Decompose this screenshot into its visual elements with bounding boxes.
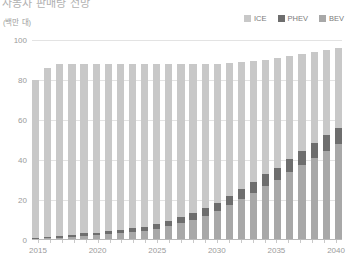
- bar-2021[interactable]: [105, 40, 112, 240]
- bar-segment-bev: [226, 205, 233, 240]
- x-axis-tick-mark: [312, 240, 313, 243]
- bar-segment-ice: [32, 80, 39, 238]
- bar-2019[interactable]: [80, 40, 87, 240]
- legend-label: BEV: [329, 15, 344, 23]
- bar-segment-phev: [238, 189, 245, 199]
- bar-segment-ice: [44, 68, 51, 237]
- bar-segment-bev: [177, 223, 184, 240]
- bar-2035[interactable]: [274, 40, 281, 240]
- x-axis-tick-mark: [50, 240, 51, 243]
- bar-2034[interactable]: [262, 40, 269, 240]
- x-axis-tick-label: 2015: [29, 246, 47, 255]
- bar-2017[interactable]: [56, 40, 63, 240]
- bar-segment-ice: [298, 54, 305, 151]
- bar-segment-ice: [238, 62, 245, 189]
- bar-segment-phev: [335, 128, 342, 144]
- y-axis-tick-label: 100: [14, 36, 27, 45]
- bar-2040[interactable]: [335, 40, 342, 240]
- bar-segment-bev: [165, 226, 172, 240]
- bar-segment-phev: [214, 203, 221, 211]
- x-axis-tick-mark: [217, 240, 218, 243]
- legend-item-ice[interactable]: ICE: [244, 15, 267, 23]
- x-axis-tick-mark: [145, 240, 146, 243]
- x-axis-tick-mark: [300, 240, 301, 243]
- bar-2032[interactable]: [238, 40, 245, 240]
- y-axis-tick-label: 40: [18, 156, 27, 165]
- bar-segment-bev: [250, 193, 257, 240]
- legend-swatch-icon: [319, 15, 326, 22]
- x-axis-tick-mark: [62, 240, 63, 243]
- y-axis-tick-label: 60: [18, 116, 27, 125]
- x-axis-tick-mark: [193, 240, 194, 243]
- x-axis-tick-mark: [205, 240, 206, 243]
- bar-segment-bev: [202, 216, 209, 240]
- bar-segment-phev: [250, 182, 257, 193]
- bar-2018[interactable]: [68, 40, 75, 240]
- bar-2036[interactable]: [286, 40, 293, 240]
- bar-2028[interactable]: [189, 40, 196, 240]
- bar-segment-ice: [93, 64, 100, 233]
- bar-2026[interactable]: [165, 40, 172, 240]
- bar-segment-ice: [68, 64, 75, 235]
- bar-segment-phev: [262, 174, 269, 186]
- bar-segment-ice: [177, 64, 184, 217]
- bar-segment-bev: [335, 144, 342, 240]
- bar-2038[interactable]: [311, 40, 318, 240]
- bar-segment-phev: [311, 143, 318, 158]
- x-axis-tick-mark: [110, 240, 111, 243]
- chart-title: 자동차 판매량 전망: [2, 0, 90, 10]
- bar-segment-ice: [56, 64, 63, 236]
- bar-2016[interactable]: [44, 40, 51, 240]
- y-axis-tick-label: 80: [18, 76, 27, 85]
- x-axis-tick-mark: [336, 240, 337, 243]
- bar-2015[interactable]: [32, 40, 39, 240]
- bar-segment-phev: [189, 213, 196, 220]
- bar-segment-ice: [202, 64, 209, 208]
- bar-2030[interactable]: [214, 40, 221, 240]
- bar-segment-phev: [286, 159, 293, 172]
- legend-swatch-icon: [278, 15, 285, 22]
- bar-2037[interactable]: [298, 40, 305, 240]
- bar-2029[interactable]: [202, 40, 209, 240]
- bar-2023[interactable]: [129, 40, 136, 240]
- bar-segment-ice: [117, 64, 124, 230]
- bar-2020[interactable]: [93, 40, 100, 240]
- legend-item-phev[interactable]: PHEV: [278, 15, 308, 23]
- x-axis-tick-mark: [86, 240, 87, 243]
- bar-segment-bev: [311, 158, 318, 240]
- bar-segment-bev: [298, 165, 305, 240]
- bar-segment-phev: [202, 208, 209, 216]
- bar-2024[interactable]: [141, 40, 148, 240]
- x-axis-tick-mark: [121, 240, 122, 243]
- bar-segment-bev: [238, 199, 245, 240]
- bar-2031[interactable]: [226, 40, 233, 240]
- bar-segment-bev: [323, 151, 330, 240]
- x-axis-tick-label: 2040: [327, 246, 345, 255]
- x-axis-tick-label: 2020: [89, 246, 107, 255]
- bar-2039[interactable]: [323, 40, 330, 240]
- bar-segment-ice: [286, 56, 293, 159]
- bar-segment-bev: [274, 180, 281, 240]
- bar-segment-ice: [226, 63, 233, 196]
- legend-item-bev[interactable]: BEV: [319, 15, 344, 23]
- bar-segment-ice: [165, 64, 172, 221]
- bar-2033[interactable]: [250, 40, 257, 240]
- bar-segment-ice: [129, 64, 136, 228]
- x-axis-ticks: 201520202025203020352040: [32, 240, 342, 244]
- x-axis-tick-mark: [241, 240, 242, 243]
- bar-2025[interactable]: [153, 40, 160, 240]
- bar-segment-bev: [189, 220, 196, 240]
- bar-2022[interactable]: [117, 40, 124, 240]
- bar-segment-ice: [80, 64, 87, 233]
- bar-segment-ice: [262, 60, 269, 174]
- bar-2027[interactable]: [177, 40, 184, 240]
- bar-segment-phev: [274, 168, 281, 180]
- x-axis-tick-mark: [181, 240, 182, 243]
- x-axis-tick-mark: [74, 240, 75, 243]
- bar-segment-ice: [274, 58, 281, 168]
- x-axis-tick-mark: [133, 240, 134, 243]
- bar-group: [32, 40, 342, 240]
- chart-legend: ICEPHEVBEV: [244, 15, 344, 23]
- bar-segment-phev: [298, 151, 305, 165]
- x-axis-tick-label: 2025: [148, 246, 166, 255]
